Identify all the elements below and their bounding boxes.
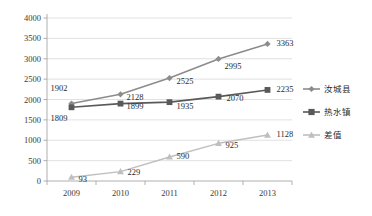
y-tick-label: 3000 bbox=[24, 54, 41, 64]
y-tick-label: 4000 bbox=[24, 13, 41, 23]
x-tick-label: 2009 bbox=[63, 188, 80, 198]
y-tick-label: 500 bbox=[28, 156, 41, 166]
y-tick-label: 3500 bbox=[24, 33, 41, 43]
data-label-2-4: 2070 bbox=[227, 93, 244, 103]
data-label-3-4: 925 bbox=[226, 140, 239, 150]
y-tick-label: 2000 bbox=[24, 95, 41, 105]
data-point-marker-1-2 bbox=[117, 91, 123, 97]
data-point-marker-3-5 bbox=[264, 131, 271, 137]
data-label-1-1: 1902 bbox=[51, 83, 68, 93]
data-label-2-5: 2235 bbox=[277, 84, 294, 94]
chart-canvas: 05001000150020002500300035004000 2009201… bbox=[0, 0, 372, 216]
chart-legend: 汝城县热水镇差值 bbox=[303, 84, 351, 140]
legend-marker-1 bbox=[308, 86, 314, 92]
data-label-1-5: 3363 bbox=[277, 38, 294, 48]
y-tick-label: 2500 bbox=[24, 74, 41, 84]
x-tick-label: 2010 bbox=[112, 188, 129, 198]
data-point-marker-2-5 bbox=[265, 87, 271, 93]
data-point-marker-2-3 bbox=[167, 99, 173, 105]
data-point-marker-2-4 bbox=[216, 94, 222, 100]
data-label-3-2: 229 bbox=[128, 167, 141, 177]
x-tick-label: 2013 bbox=[259, 188, 276, 198]
data-point-marker-2-2 bbox=[118, 101, 124, 107]
data-label-3-5: 1128 bbox=[277, 129, 294, 139]
data-label-1-4: 2995 bbox=[225, 61, 242, 71]
legend-item-2[interactable]: 热水镇 bbox=[303, 107, 351, 117]
data-point-marker-1-3 bbox=[166, 75, 172, 81]
data-labels: 1902212825252995336318091899193520702235… bbox=[51, 38, 294, 184]
data-label-2-1: 1809 bbox=[51, 113, 68, 123]
legend-item-1[interactable]: 汝城县 bbox=[303, 84, 351, 94]
line-chart: 05001000150020002500300035004000 2009201… bbox=[0, 0, 372, 216]
grid-lines bbox=[47, 18, 292, 161]
data-point-marker-1-5 bbox=[264, 41, 270, 47]
data-point-marker-1-4 bbox=[215, 56, 221, 62]
y-axis: 05001000150020002500300035004000 bbox=[24, 13, 47, 186]
data-label-3-3: 590 bbox=[177, 151, 190, 161]
legend-label-2: 热水镇 bbox=[324, 107, 351, 117]
data-label-1-3: 2525 bbox=[177, 76, 194, 86]
legend-label-3: 差值 bbox=[324, 130, 342, 140]
data-label-2-2: 1899 bbox=[127, 101, 144, 111]
y-tick-label: 1500 bbox=[24, 115, 41, 125]
data-point-marker-2-1 bbox=[69, 104, 75, 110]
data-label-2-3: 1935 bbox=[177, 101, 194, 111]
legend-marker-2 bbox=[308, 109, 314, 115]
y-tick-label: 0 bbox=[37, 176, 41, 186]
y-tick-label: 1000 bbox=[24, 135, 41, 145]
legend-label-1: 汝城县 bbox=[324, 84, 351, 94]
x-tick-label: 2012 bbox=[210, 188, 227, 198]
data-label-3-1: 93 bbox=[79, 174, 88, 184]
x-tick-label: 2011 bbox=[161, 188, 178, 198]
legend-item-3[interactable]: 差值 bbox=[303, 130, 342, 140]
